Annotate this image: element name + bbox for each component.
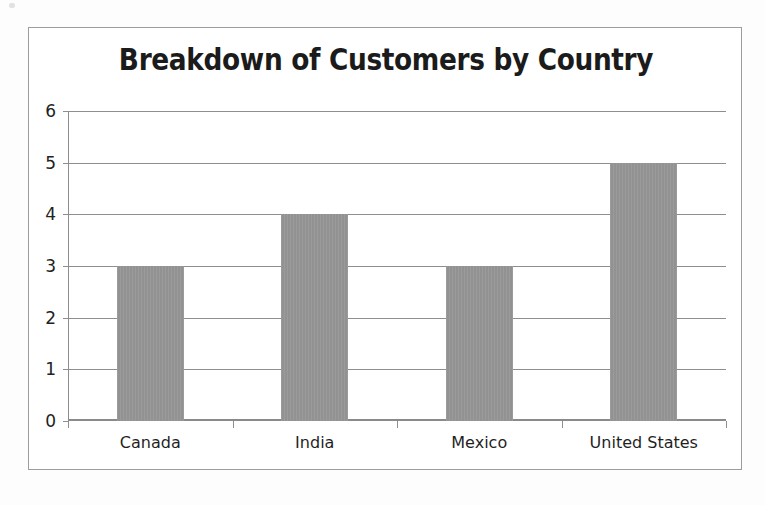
chart-frame: Breakdown of Customers by Country 012345… [28,27,742,470]
scan-artifact-speck [9,3,15,8]
category-boundary-tick-1 [233,421,234,428]
y-axis-tick-3 [63,266,68,267]
y-axis-tick-1 [63,369,68,370]
scanned-page-background: Breakdown of Customers by Country 012345… [0,0,765,505]
y-axis-label-1: 1 [45,359,56,379]
y-axis-label-2: 2 [45,308,56,328]
bar-united-states[interactable] [610,163,677,421]
x-axis-label-canada: Canada [120,433,181,452]
plot-area: 0123456 CanadaIndiaMexicoUnited States [68,111,726,421]
x-axis-label-india: India [295,433,334,452]
y-axis-tick-6 [63,111,68,112]
y-axis-label-0: 0 [45,411,56,431]
x-axis-label-united-states: United States [590,433,698,452]
y-axis-tick-2 [63,318,68,319]
x-axis-label-mexico: Mexico [451,433,507,452]
category-boundary-tick-0 [68,421,69,428]
gridline-y-6 [68,111,726,112]
bar-canada[interactable] [117,266,184,421]
bar-mexico[interactable] [446,266,513,421]
y-axis-label-5: 5 [45,153,56,173]
chart-title: Breakdown of Customers by Country [72,42,700,77]
y-axis-label-6: 6 [45,101,56,121]
bar-india[interactable] [281,214,348,421]
category-boundary-tick-3 [562,421,563,428]
y-axis-label-4: 4 [45,204,56,224]
y-axis-label-3: 3 [45,256,56,276]
category-boundary-tick-4 [726,421,727,428]
y-axis-tick-5 [63,163,68,164]
y-axis-tick-4 [63,214,68,215]
category-boundary-tick-2 [397,421,398,428]
